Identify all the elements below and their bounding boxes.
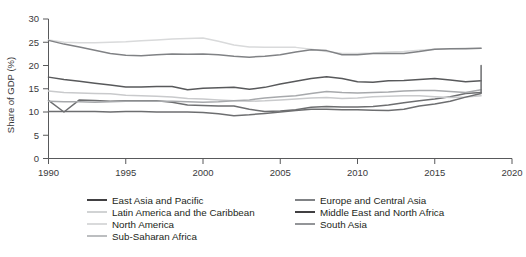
y-axis-title: Share of GDP (%): [5, 57, 16, 133]
y-tick-label: 5: [34, 130, 39, 141]
series-line-latin-america-and-the-caribbean: [49, 91, 482, 101]
y-axis-title-text: Share of GDP (%): [5, 57, 16, 133]
x-tick-label: 2000: [192, 167, 213, 178]
series-group: [49, 38, 482, 116]
series-line-north-america: [49, 38, 482, 53]
y-tick-label: 10: [28, 106, 39, 117]
x-tick-label: 1995: [115, 167, 136, 178]
y-tick-label: 15: [28, 83, 39, 94]
legend-label-latin-america-and-the-caribbean: Latin America and the Caribbean: [112, 207, 255, 218]
y-tick-label: 0: [34, 153, 39, 164]
x-tick-label: 2010: [347, 167, 368, 178]
x-axis-ticks: 1990199520002005201020152020: [38, 159, 523, 179]
chart-legend: East Asia and PacificLatin America and t…: [87, 195, 445, 242]
x-tick-label: 2015: [424, 167, 445, 178]
legend-label-sub-saharan-africa: Sub-Saharan Africa: [112, 231, 198, 242]
legend-label-europe-and-central-asia: Europe and Central Asia: [320, 195, 427, 206]
x-tick-label: 1990: [38, 167, 59, 178]
line-chart: Share of GDP (%) 051015202530 1990199520…: [0, 0, 526, 257]
axes: [49, 19, 513, 159]
legend-label-middle-east-and-north-africa: Middle East and North Africa: [320, 207, 445, 218]
figure: Share of GDP (%) 051015202530 1990199520…: [0, 0, 526, 257]
x-tick-label: 2005: [270, 167, 291, 178]
y-axis-ticks: 051015202530: [28, 13, 48, 164]
legend-label-north-america: North America: [112, 219, 175, 230]
y-tick-label: 30: [28, 13, 39, 24]
y-tick-label: 20: [28, 60, 39, 71]
y-tick-label: 25: [28, 37, 39, 48]
x-tick-label: 2020: [501, 167, 522, 178]
legend-label-south-asia: South Asia: [320, 219, 367, 230]
legend-label-east-asia-and-pacific: East Asia and Pacific: [112, 195, 204, 206]
series-line-middle-east-and-north-africa: [49, 77, 482, 90]
